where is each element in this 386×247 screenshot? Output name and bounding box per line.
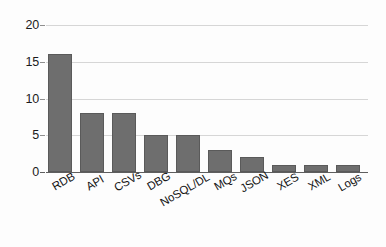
ytick-label-0: 0 xyxy=(13,166,39,179)
ytick-mark-5 xyxy=(40,135,45,136)
ytick-mark-20 xyxy=(40,25,45,26)
xtick-label-dbg: DBG xyxy=(145,170,172,193)
ytick-mark-0 xyxy=(40,172,45,173)
xtick-label-xes: XES xyxy=(275,171,301,193)
ytick-label-20: 20 xyxy=(13,19,39,32)
xtick-label-nosqldl: NoSQL/DL xyxy=(158,171,211,209)
axis-baseline xyxy=(46,172,368,173)
bar-logs[interactable] xyxy=(336,165,360,172)
bars-container xyxy=(46,25,368,172)
xtick-label-xml: XML xyxy=(306,170,332,192)
bar-xes[interactable] xyxy=(272,165,296,172)
ytick-label-5: 5 xyxy=(13,129,39,142)
bar-chart: 20 15 10 5 0 RDB API CSVs DBG NoSQL/DL M… xyxy=(0,0,386,247)
bar-api[interactable] xyxy=(80,113,104,172)
ytick-label-15: 15 xyxy=(13,56,39,69)
ytick-mark-15 xyxy=(40,62,45,63)
bar-xml[interactable] xyxy=(304,165,328,172)
ytick-label-10: 10 xyxy=(13,93,39,106)
bar-json[interactable] xyxy=(240,157,264,172)
xtick-label-logs: Logs xyxy=(336,171,363,194)
bar-mqs[interactable] xyxy=(208,150,232,172)
bar-csvs[interactable] xyxy=(112,113,136,172)
bar-rdb[interactable] xyxy=(48,54,72,172)
ytick-mark-10 xyxy=(40,99,45,100)
xtick-label-mqs: MQs xyxy=(212,170,239,192)
xtick-label-rdb: RDB xyxy=(50,170,77,192)
xtick-label-api: API xyxy=(84,173,106,193)
bar-nosqldl[interactable] xyxy=(176,135,200,172)
bar-dbg[interactable] xyxy=(144,135,168,172)
